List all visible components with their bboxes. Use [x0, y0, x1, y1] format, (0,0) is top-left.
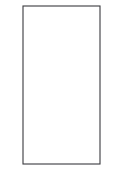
figure-canvas [0, 0, 125, 196]
tower-body [23, 6, 100, 164]
tower-diagram [0, 0, 125, 196]
